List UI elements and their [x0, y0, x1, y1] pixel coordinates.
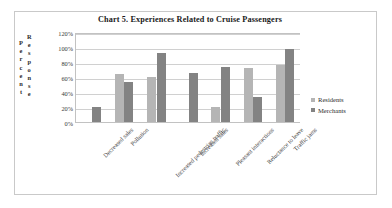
bar-residents [147, 77, 156, 122]
legend-item: Residents [311, 96, 346, 103]
y-axis-tick-label: 80% [61, 60, 73, 67]
y-axis-title: Percent Response [19, 31, 47, 131]
legend-swatch-icon [311, 108, 315, 112]
y-axis-title-percent: Percent [19, 31, 23, 131]
y-axis-title-letter: t [20, 88, 22, 96]
y-axis-title-letter: e [20, 47, 23, 55]
bar-group [140, 34, 172, 122]
y-axis-tick-label: 40% [61, 90, 73, 97]
y-axis-title-letter: e [20, 72, 23, 80]
y-axis-title-letter: n [19, 80, 23, 88]
bar-group [237, 34, 269, 122]
y-axis-title-letter: c [20, 64, 23, 72]
legend-item: Merchants [311, 107, 346, 114]
y-axis-tick-labels: 120%100%80%60%40%20%0% [47, 33, 73, 123]
y-axis-title-letter: R [27, 33, 32, 41]
y-axis-tick-label: 20% [61, 105, 73, 112]
legend-swatch-icon [311, 98, 315, 102]
bar-group [76, 34, 108, 122]
y-axis-title-letter: r [20, 55, 23, 63]
bar-merchants [124, 82, 133, 123]
bar-group [172, 34, 204, 122]
legend-item-label: Merchants [318, 107, 346, 114]
bars-layer [76, 34, 300, 122]
bar-group [269, 34, 301, 122]
y-axis-tick-label: 120% [58, 30, 73, 37]
y-axis-title-letter: p [27, 58, 31, 66]
bar-merchants [285, 49, 294, 122]
bar-merchants [92, 107, 101, 122]
y-axis-title-letter: s [28, 82, 31, 90]
y-axis-tick-label: 60% [61, 75, 73, 82]
bar-residents [244, 68, 253, 122]
bar-group [108, 34, 140, 122]
y-axis-title-letter: e [28, 90, 31, 98]
bar-residents [211, 107, 220, 122]
bar-residents [115, 74, 124, 122]
bar-merchants [253, 97, 262, 122]
x-axis-category-label: Increased sales [197, 126, 228, 157]
y-axis-tick-label: 100% [58, 45, 73, 52]
chart-legend: ResidentsMerchants [311, 96, 346, 114]
bar-merchants [189, 73, 198, 122]
y-axis-title-letter: n [27, 74, 31, 82]
y-axis-title-letter: s [28, 49, 31, 57]
bar-merchants [221, 67, 230, 123]
chart-title: Chart 5. Experiences Related to Cruise P… [40, 15, 340, 24]
bar-group [205, 34, 237, 122]
y-axis-title-letter: P [19, 39, 23, 47]
chart-figure: Chart 5. Experiences Related to Cruise P… [0, 0, 392, 208]
bar-residents [276, 65, 285, 122]
y-axis-title-letter: e [28, 41, 31, 49]
bar-merchants [157, 53, 166, 122]
y-axis-title-response: Response [27, 31, 32, 131]
plot-area [75, 33, 300, 123]
x-axis-category-labels: Decreased salesPollutionIncreased pedest… [0, 124, 392, 204]
y-axis-title-letter: o [28, 66, 31, 74]
legend-item-label: Residents [318, 96, 344, 103]
